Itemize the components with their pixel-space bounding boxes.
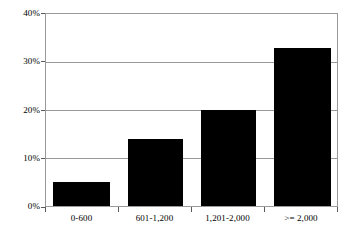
bar-ge-2000[interactable] bbox=[274, 48, 331, 206]
x-tick-mark-4 bbox=[337, 207, 338, 212]
x-tick-mark-1 bbox=[118, 207, 119, 212]
bar-chart: 40% 30% 20% 10% 0% bbox=[0, 0, 353, 236]
bar-1201-2000[interactable] bbox=[201, 110, 256, 206]
bar-0-600[interactable] bbox=[53, 182, 110, 206]
bar-slot-1 bbox=[119, 14, 192, 206]
y-tick-label-0: 0% bbox=[0, 202, 40, 211]
x-tick-label-3: >= 2,000 bbox=[264, 213, 338, 224]
bar-601-1200[interactable] bbox=[128, 139, 183, 206]
y-tick-label-40: 40% bbox=[0, 9, 40, 18]
bar-group bbox=[46, 14, 337, 206]
y-tick-label-20: 20% bbox=[0, 106, 40, 115]
y-tick-label-10: 10% bbox=[0, 154, 40, 163]
x-tick-label-2: 1,201-2,000 bbox=[191, 213, 264, 224]
bar-slot-0 bbox=[46, 14, 119, 206]
x-tick-mark-0 bbox=[45, 207, 46, 212]
plot-area bbox=[45, 13, 338, 207]
bar-slot-2 bbox=[192, 14, 265, 206]
x-tick-label-1: 601-1,200 bbox=[118, 213, 191, 224]
x-tick-mark-2 bbox=[191, 207, 192, 212]
x-tick-label-0: 0-600 bbox=[45, 213, 118, 224]
x-tick-mark-3 bbox=[264, 207, 265, 212]
bar-slot-3 bbox=[265, 14, 339, 206]
y-tick-label-30: 30% bbox=[0, 57, 40, 66]
